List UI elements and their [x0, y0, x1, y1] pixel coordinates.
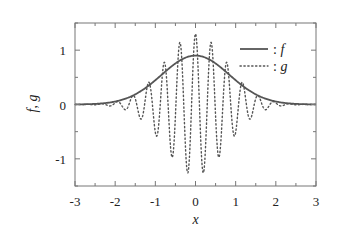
legend-colon: : [273, 59, 280, 74]
x-tick-label: -3 [70, 194, 81, 209]
x-tick-label: -2 [110, 194, 121, 209]
x-axis-label: x [191, 212, 199, 227]
x-tick-label: 3 [313, 194, 320, 209]
x-tick-labels: -3-2-10123 [70, 194, 320, 209]
y-axis-label: f, g [25, 95, 40, 113]
x-tick-label: 2 [273, 194, 280, 209]
legend-colon: : [273, 42, 280, 57]
legend-series-name: g [280, 59, 287, 74]
x-tick-label: 1 [232, 194, 239, 209]
legend-f-label: : f [273, 42, 286, 57]
legend: : f : g [240, 42, 287, 74]
legend-g-label: : g [273, 59, 287, 74]
y-tick-label: 1 [60, 43, 67, 58]
legend-series-name: f [280, 42, 286, 57]
x-tick-label: -1 [150, 194, 161, 209]
chart: -3-2-10123 -101 x f, g : f : g [0, 0, 339, 244]
y-tick-label: 0 [60, 98, 67, 113]
y-tick-labels: -101 [55, 43, 66, 167]
y-tick-label: -1 [55, 152, 66, 167]
x-tick-label: 0 [192, 194, 199, 209]
